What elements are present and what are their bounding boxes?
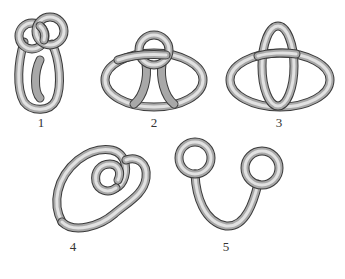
figure-4-label: 4 [70,240,77,253]
figure-2-ellipse-with-ring [105,35,203,107]
knot-figures-canvas [0,0,345,279]
figure-3-ellipse-with-vertical-loop [230,26,330,107]
figure-1-linked-rings [19,17,64,109]
figure-3-label: 3 [276,116,283,129]
figure-5-label: 5 [223,240,230,253]
figure-4-tilted-knot [57,150,146,228]
figure-1-label: 1 [38,116,45,129]
figure-2-label: 2 [151,116,158,129]
figure-5-u-shaped-rings [179,142,279,226]
